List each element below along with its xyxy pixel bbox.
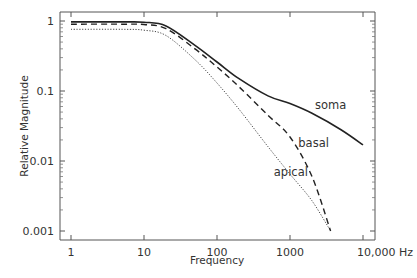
x-tick-label: 1000 bbox=[276, 246, 304, 259]
x-axis-title: Frequency bbox=[190, 254, 244, 266]
series-label-soma: soma bbox=[315, 98, 346, 112]
y-tick-label: 0.01 bbox=[30, 155, 55, 168]
x-tick-label: 10 bbox=[137, 246, 151, 259]
plot-frame bbox=[60, 12, 375, 240]
axes-box bbox=[60, 12, 375, 240]
series-labels: somabasalapical bbox=[274, 98, 346, 178]
series-line-apical bbox=[71, 29, 331, 231]
x-tick-label: 10,000 Hz bbox=[357, 246, 413, 259]
y-tick-label: 0.001 bbox=[23, 225, 55, 238]
frequency-response-chart: 10.10.010.001 110100100010,000 Hz somaba… bbox=[0, 0, 417, 278]
y-tick-label: 0.1 bbox=[37, 85, 55, 98]
series-label-apical: apical bbox=[274, 165, 308, 179]
series-line-basal bbox=[71, 24, 331, 231]
y-tick-label: 1 bbox=[47, 15, 54, 28]
y-axis-title: Relative Magnitude bbox=[18, 75, 30, 176]
series-label-basal: basal bbox=[298, 136, 329, 150]
series-lines bbox=[71, 22, 363, 231]
x-tick-label: 1 bbox=[68, 246, 75, 259]
x-axis-ticks: 110100100010,000 Hz bbox=[68, 12, 414, 259]
